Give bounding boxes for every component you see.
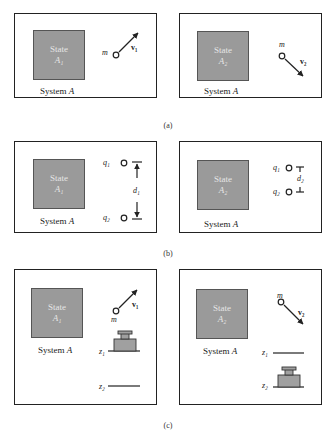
velocity-arrow-icon xyxy=(284,305,303,324)
velocity-arrow-icon xyxy=(119,290,137,308)
charge-icon xyxy=(286,165,292,171)
particle-icon xyxy=(113,308,119,314)
charge-icon xyxy=(286,189,292,195)
particle-icon xyxy=(113,52,119,58)
velocity-arrow-icon xyxy=(285,59,303,76)
diagram-graphics xyxy=(0,0,336,436)
weight-icon xyxy=(114,331,136,351)
charge-icon xyxy=(121,215,127,221)
velocity-arrow-icon xyxy=(119,33,138,52)
particle-icon xyxy=(279,53,285,59)
particle-icon xyxy=(278,299,284,305)
charge-icon xyxy=(121,160,127,166)
weight-icon xyxy=(278,367,300,387)
